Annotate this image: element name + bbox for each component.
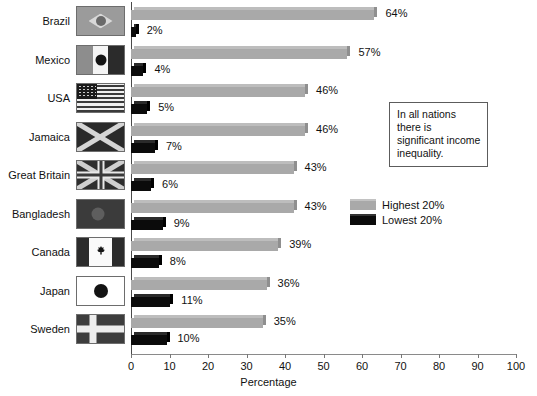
category-label-canada: Canada bbox=[0, 246, 76, 258]
great-britain-flag bbox=[76, 160, 125, 190]
bar-highest-brazil bbox=[131, 7, 377, 20]
bar-value-highest: 43% bbox=[305, 200, 327, 212]
bar-highest-usa bbox=[131, 84, 308, 97]
canada-flag bbox=[76, 237, 125, 267]
bar-highest-sweden bbox=[131, 315, 266, 328]
mexico-flag bbox=[76, 45, 125, 75]
bar-lowest-canada bbox=[131, 255, 162, 268]
income-inequality-bar-chart: BrazilMexicoUSAJamaicaGreat BritainBangl… bbox=[0, 0, 537, 396]
bar-highest-mexico bbox=[131, 46, 350, 59]
category-row: Jamaica bbox=[0, 118, 125, 156]
bar-value-highest: 36% bbox=[278, 277, 300, 289]
legend-item: Lowest 20% bbox=[350, 213, 444, 226]
bar-lowest-great-britain bbox=[131, 178, 154, 191]
bar-value-lowest: 10% bbox=[178, 332, 200, 344]
bar-lowest-mexico bbox=[131, 63, 146, 76]
x-tick bbox=[170, 354, 171, 358]
bar-highest-bangladesh bbox=[131, 200, 297, 213]
japan-flag bbox=[76, 276, 125, 306]
bar-value-highest: 46% bbox=[316, 84, 338, 96]
bar-value-highest: 43% bbox=[305, 161, 327, 173]
category-row: USA bbox=[0, 79, 125, 117]
category-row: Canada bbox=[0, 233, 125, 271]
bar-value-lowest: 2% bbox=[147, 24, 163, 36]
x-tick-label: 0 bbox=[128, 360, 134, 372]
bar-highest-canada bbox=[131, 238, 281, 251]
x-tick bbox=[401, 354, 402, 358]
category-row: Brazil bbox=[0, 2, 125, 40]
bar-highest-jamaica bbox=[131, 123, 308, 136]
x-tick-label: 40 bbox=[279, 360, 291, 372]
x-tick bbox=[208, 354, 209, 358]
x-tick bbox=[247, 354, 248, 358]
x-tick-label: 90 bbox=[471, 360, 483, 372]
x-tick bbox=[439, 354, 440, 358]
chart-legend: Highest 20%Lowest 20% bbox=[350, 198, 444, 228]
bar-highest-great-britain bbox=[131, 161, 297, 174]
brazil-flag bbox=[76, 6, 125, 36]
sweden-flag bbox=[76, 314, 125, 344]
x-axis-title: Percentage bbox=[0, 376, 537, 388]
usa-flag bbox=[76, 83, 125, 113]
x-tick bbox=[362, 354, 363, 358]
category-row: Great Britain bbox=[0, 156, 125, 194]
bar-lowest-japan bbox=[131, 294, 173, 307]
category-label-jamaica: Jamaica bbox=[0, 131, 76, 143]
annotation-callout: In all nations there is significant inco… bbox=[389, 102, 488, 167]
bar-value-highest: 39% bbox=[289, 238, 311, 250]
legend-label: Highest 20% bbox=[382, 199, 444, 211]
category-row: Japan bbox=[0, 272, 125, 310]
bar-value-lowest: 11% bbox=[181, 294, 202, 306]
bangladesh-flag bbox=[76, 199, 125, 229]
category-row: Bangladesh bbox=[0, 195, 125, 233]
bar-value-lowest: 9% bbox=[174, 217, 190, 229]
bar-lowest-bangladesh bbox=[131, 217, 166, 230]
x-tick bbox=[131, 354, 132, 358]
bar-lowest-sweden bbox=[131, 332, 170, 345]
bar-value-lowest: 6% bbox=[162, 178, 178, 190]
x-tick-label: 30 bbox=[240, 360, 252, 372]
bar-value-lowest: 5% bbox=[158, 101, 174, 113]
x-tick-label: 50 bbox=[317, 360, 329, 372]
category-row: Sweden bbox=[0, 310, 125, 348]
category-label-bangladesh: Bangladesh bbox=[0, 208, 76, 220]
bar-lowest-jamaica bbox=[131, 140, 158, 153]
bar-value-highest: 57% bbox=[358, 46, 380, 58]
x-tick bbox=[478, 354, 479, 358]
bar-value-lowest: 4% bbox=[154, 63, 170, 75]
bar-value-highest: 46% bbox=[316, 123, 338, 135]
legend-label: Lowest 20% bbox=[382, 214, 442, 226]
bar-lowest-brazil bbox=[131, 24, 139, 37]
bar-highest-japan bbox=[131, 277, 270, 290]
legend-swatch-high bbox=[350, 199, 376, 210]
category-label-usa: USA bbox=[0, 92, 76, 104]
legend-swatch-low bbox=[350, 214, 376, 225]
x-tick-label: 100 bbox=[507, 360, 525, 372]
category-label-japan: Japan bbox=[0, 285, 76, 297]
x-tick bbox=[285, 354, 286, 358]
x-tick bbox=[516, 354, 517, 358]
category-label-brazil: Brazil bbox=[0, 15, 76, 27]
bar-lowest-usa bbox=[131, 101, 150, 114]
bar-value-lowest: 7% bbox=[166, 140, 182, 152]
bar-value-lowest: 8% bbox=[170, 255, 186, 267]
legend-item: Highest 20% bbox=[350, 198, 444, 211]
x-tick bbox=[324, 354, 325, 358]
category-row: Mexico bbox=[0, 41, 125, 79]
x-tick-label: 60 bbox=[356, 360, 368, 372]
jamaica-flag bbox=[76, 122, 125, 152]
x-tick-label: 80 bbox=[433, 360, 445, 372]
x-tick-label: 20 bbox=[202, 360, 214, 372]
category-label-sweden: Sweden bbox=[0, 323, 76, 335]
category-label-mexico: Mexico bbox=[0, 54, 76, 66]
bar-value-highest: 35% bbox=[274, 315, 296, 327]
x-tick-label: 10 bbox=[163, 360, 175, 372]
x-tick-label: 70 bbox=[394, 360, 406, 372]
bar-value-highest: 64% bbox=[385, 7, 407, 19]
category-label-great-britain: Great Britain bbox=[0, 169, 76, 181]
